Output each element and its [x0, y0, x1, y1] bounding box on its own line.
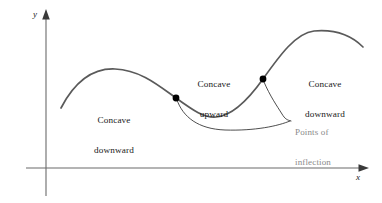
concave-downward-left-label: Concave downward	[94, 94, 134, 176]
concave-upward-label: Concave upward	[197, 58, 230, 140]
leader-line-first-point	[177, 100, 290, 130]
concave-downward-left-line1: Concave	[94, 115, 134, 125]
first-inflection-point	[173, 95, 180, 102]
second-inflection-point	[260, 76, 267, 83]
points-of-inflection-line2: inflection	[295, 157, 331, 167]
y-axis-label: y	[33, 9, 37, 19]
concavity-figure: y x Concave downward Concave upward Conc…	[0, 0, 382, 203]
points-of-inflection-line1: Points of	[295, 127, 331, 137]
concave-downward-right-line1: Concave	[305, 79, 345, 89]
concave-downward-left-line2: downward	[94, 145, 134, 155]
points-of-inflection-label: Points of inflection	[295, 107, 331, 188]
concave-upward-line1: Concave	[197, 79, 230, 89]
y-axis-label-text: y	[33, 9, 37, 19]
leader-line-second-point	[264, 82, 291, 121]
concave-upward-line2: upward	[197, 109, 230, 119]
x-axis-label: x	[356, 172, 360, 182]
x-axis-arrowhead	[359, 164, 370, 172]
x-axis-label-text: x	[356, 172, 360, 182]
y-axis-arrowhead	[42, 9, 50, 20]
